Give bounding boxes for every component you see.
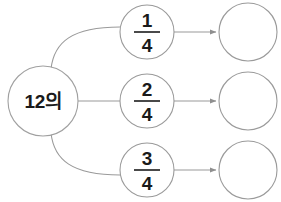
- result-circle-row-1[interactable]: [219, 3, 277, 61]
- diagram-canvas: 12의 1 4 2 4 3 4: [0, 0, 281, 202]
- fraction-numerator-row-3: 3: [142, 148, 153, 169]
- fraction-denominator-row-2: 4: [142, 104, 153, 125]
- connector-source-to-row-3: [51, 133, 120, 175]
- fraction-denominator-row-3: 4: [142, 173, 153, 194]
- fraction-numerator-row-1: 1: [142, 10, 153, 31]
- fraction-denominator-row-1: 4: [142, 35, 153, 56]
- source-quantity-label: 12의: [24, 91, 61, 112]
- result-circle-row-2[interactable]: [219, 72, 277, 130]
- connector-source-to-row-1: [51, 27, 120, 69]
- fraction-numerator-row-2: 2: [142, 79, 153, 100]
- result-circle-row-3[interactable]: [219, 141, 277, 199]
- fraction-diagram: 12의 1 4 2 4 3 4: [0, 0, 281, 202]
